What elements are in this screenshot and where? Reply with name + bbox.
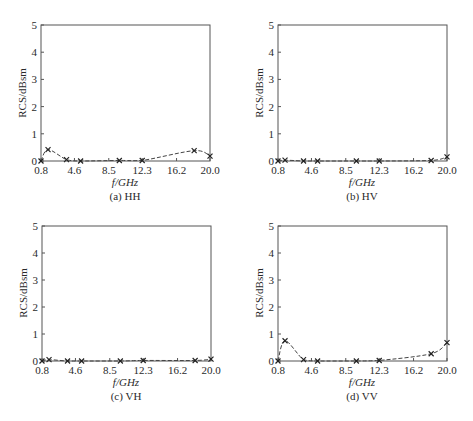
x-marker-icon bbox=[283, 338, 288, 343]
x-axis-label: f/GHz bbox=[349, 176, 376, 188]
x-tick-label: 20.0 bbox=[201, 364, 221, 376]
y-tick-label: 2 bbox=[33, 301, 39, 313]
y-tick-label: 2 bbox=[269, 301, 275, 313]
plot-area bbox=[278, 25, 447, 161]
plot-area bbox=[42, 226, 211, 361]
plot-area bbox=[278, 226, 447, 361]
y-tick-label: 1 bbox=[32, 128, 38, 140]
y-axis-ticks: 012345 bbox=[269, 19, 282, 167]
panel-caption: (a) HH bbox=[110, 190, 141, 203]
x-tick-label: 16.2 bbox=[404, 364, 423, 376]
x-tick-label: 12.3 bbox=[370, 164, 390, 176]
y-tick-label: 3 bbox=[269, 73, 275, 85]
y-axis-ticks: 012345 bbox=[269, 220, 282, 367]
y-axis-label: RCS/dBsm bbox=[17, 268, 29, 318]
x-tick-label: 16.2 bbox=[168, 364, 187, 376]
y-axis-ticks: 012345 bbox=[32, 19, 45, 167]
y-tick-label: 1 bbox=[33, 328, 39, 340]
x-tick-label: 4.6 bbox=[305, 364, 319, 376]
y-tick-label: 4 bbox=[269, 46, 275, 58]
x-tick-label: 0.8 bbox=[271, 364, 285, 376]
chart-panel-hv: 012345 0.84.68.512.316.220.0 RCS/dBsm f/… bbox=[253, 19, 457, 203]
chart-panel-vv: 012345 0.84.68.512.316.220.0 RCS/dBsm f/… bbox=[253, 220, 457, 403]
y-tick-label: 4 bbox=[32, 46, 38, 58]
x-tick-label: 20.0 bbox=[200, 164, 220, 176]
x-tick-label: 12.3 bbox=[133, 164, 153, 176]
x-tick-label: 4.6 bbox=[69, 364, 83, 376]
y-tick-label: 3 bbox=[269, 274, 275, 286]
y-tick-label: 2 bbox=[269, 101, 275, 113]
x-tick-label: 8.5 bbox=[103, 364, 117, 376]
y-axis-ticks: 012345 bbox=[33, 220, 46, 367]
x-tick-label: 8.5 bbox=[339, 364, 353, 376]
y-tick-label: 5 bbox=[33, 220, 39, 232]
x-axis-label: f/GHz bbox=[112, 176, 139, 188]
x-tick-label: 8.5 bbox=[102, 164, 116, 176]
y-tick-label: 4 bbox=[269, 247, 275, 259]
y-axis-label: RCS/dBsm bbox=[16, 68, 28, 118]
y-tick-label: 1 bbox=[269, 128, 275, 140]
y-tick-label: 1 bbox=[269, 328, 275, 340]
panel-caption: (d) VV bbox=[346, 390, 377, 403]
y-tick-label: 5 bbox=[269, 220, 275, 232]
y-axis-label: RCS/dBsm bbox=[253, 268, 265, 318]
x-tick-label: 0.8 bbox=[34, 164, 48, 176]
x-tick-label: 20.0 bbox=[437, 164, 457, 176]
chart-panel-vh: 012345 0.84.68.512.316.220.0 RCS/dBsm f/… bbox=[17, 220, 221, 403]
figure-2x2-rcs-charts: 012345 0.84.68.512.316.220.0 RCS/dBsm f/… bbox=[0, 0, 473, 421]
y-tick-label: 5 bbox=[269, 19, 275, 31]
x-axis-label: f/GHz bbox=[349, 376, 376, 388]
x-tick-label: 0.8 bbox=[271, 164, 285, 176]
panel-caption: (b) HV bbox=[346, 190, 378, 203]
x-tick-label: 12.3 bbox=[134, 364, 154, 376]
y-tick-label: 4 bbox=[33, 247, 39, 259]
y-tick-label: 3 bbox=[33, 274, 39, 286]
y-tick-label: 2 bbox=[32, 101, 38, 113]
data-series-hv bbox=[276, 154, 450, 163]
x-tick-label: 0.8 bbox=[35, 364, 49, 376]
data-series-vh bbox=[40, 357, 214, 364]
x-tick-label: 8.5 bbox=[339, 164, 353, 176]
x-tick-label: 20.0 bbox=[437, 364, 457, 376]
plot-area bbox=[41, 25, 210, 161]
y-axis-label: RCS/dBsm bbox=[253, 68, 265, 118]
y-tick-label: 3 bbox=[32, 73, 38, 85]
chart-panel-hh: 012345 0.84.68.512.316.220.0 RCS/dBsm f/… bbox=[16, 19, 220, 203]
x-axis-label: f/GHz bbox=[113, 376, 140, 388]
x-tick-label: 16.2 bbox=[404, 164, 423, 176]
x-tick-label: 12.3 bbox=[370, 364, 390, 376]
data-series-vv bbox=[276, 338, 450, 363]
x-tick-label: 4.6 bbox=[68, 164, 82, 176]
x-tick-label: 4.6 bbox=[305, 164, 319, 176]
panel-caption: (c) VH bbox=[111, 390, 142, 403]
y-tick-label: 5 bbox=[32, 19, 38, 31]
x-tick-label: 16.2 bbox=[167, 164, 186, 176]
